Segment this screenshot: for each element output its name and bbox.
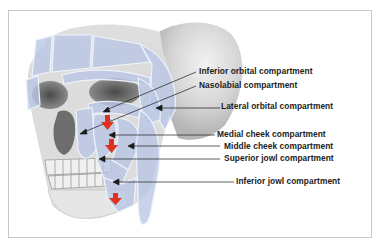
forehead-lateral-left (32, 36, 52, 76)
forehead-central (52, 35, 92, 72)
label-inferior-jowl: Inferior jowl compartment (236, 176, 340, 186)
skull-diagram (0, 0, 374, 247)
label-middle-cheek: Middle cheek compartment (224, 141, 333, 151)
label-inferior-orbital: Inferior orbital compartment (199, 66, 313, 76)
left-temporal (26, 76, 40, 110)
label-superior-jowl: Superior jowl compartment (224, 153, 334, 163)
label-nasolabial: Nasolabial compartment (199, 80, 297, 90)
label-medial-cheek: Medial cheek compartment (217, 129, 326, 139)
label-lateral-orbital: Lateral orbital compartment (221, 101, 333, 111)
